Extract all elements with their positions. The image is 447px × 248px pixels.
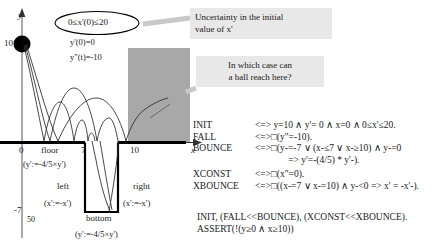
spec-name-bounce-cont [193,155,255,167]
spec-body-fall: <=>□(y"=-10). [255,132,312,144]
region-label-left: left [57,182,69,191]
callout-reach-line1: In which case can [201,59,319,71]
region-equation-bottom: (y':=-4/5×y') [75,230,118,239]
spec-name-fall: FALL [193,132,255,144]
spec-footer-line2: ASSERT(!(y≥0 ∧ x≥10)) [197,224,294,236]
figure-root: y x 10 0 7 10 -7 50 0≤x'(0)≤20 y'(0)=0 y… [0,0,447,248]
y-tick-10: 10 [4,39,13,48]
x-tick-7: 7 [81,146,86,155]
callout-uncertainty-line2: value of x' [195,23,327,35]
spec-line: FALL <=>□(y"=-10). [193,132,419,144]
spec-name-xbounce: XBOUNCE [193,181,255,193]
spec-body-init: <=> y=10 ∧ y'= 0 ∧ x=0 ∧ 0≤x'≤20. [255,120,396,132]
region-label-floor: floor [41,146,59,155]
spec-body-xbounce: <=>□((x-=7 ∨ x-=10) ∧ y-<0 => x' = -x'-)… [255,181,419,193]
region-label-bottom: bottom [86,214,112,223]
y-axis-label: y [18,11,22,20]
goal-region-rect [128,48,190,143]
x-tick-10: 10 [130,146,139,155]
y-tick-neg7: -7 [14,206,22,215]
region-equation-left: (x':=-x') [44,199,71,208]
spec-line: XCONST <=>□(x"=0). [193,169,419,181]
region-equation-right: (x':=-x') [123,199,150,208]
initial-condition-yprime: y'(0)=0 [70,38,95,47]
x-tick-0: 0 [19,146,24,155]
spec-footer-line1: INIT, (FALL<<BOUNCE), (XCONST<<XBOUNCE). [197,212,407,224]
spec-line: => y'=-(4/5) * y'-). [193,155,419,167]
spec-name-xconst: XCONST [193,169,255,181]
y-tick-50: 50 [27,216,35,224]
callout-uncertainty: Uncertainty in the initial value of x' [190,8,332,39]
spec-name-init: INIT [193,120,255,132]
spec-body-bounce-cont: => y'=-(4/5) * y'-). [255,155,359,167]
initial-condition-ydoubleprime: y"(t)=-10 [70,53,102,62]
spec-name-bounce: BOUNCE [193,143,255,155]
pit-outline [85,143,118,213]
spec-body-bounce: <=>□(y-=-7 ∨ (x-≤7 ∨ x-≥10) ∧ y-=0 [255,143,401,155]
region-label-right: right [133,182,150,191]
callout-reach: In which case can a ball reach here? [196,56,324,87]
spec-block: INIT <=> y=10 ∧ y'= 0 ∧ x=0 ∧ 0≤x'≤20. F… [193,120,419,192]
callout-uncertainty-line1: Uncertainty in the initial [195,11,327,23]
ellipse-callout-connector [143,18,190,24]
spec-line: XBOUNCE <=>□((x-=7 ∨ x-=10) ∧ y-<0 => x'… [193,181,419,193]
uncertainty-interval-text: 0≤x'(0)≤20 [68,18,108,27]
spec-line: INIT <=> y=10 ∧ y'= 0 ∧ x=0 ∧ 0≤x'≤20. [193,120,419,132]
callout-reach-line2: a ball reach here? [201,71,319,83]
spec-body-xconst: <=>□(x"=0). [255,169,304,181]
spec-line: BOUNCE <=>□(y-=-7 ∨ (x-≤7 ∨ x-≥10) ∧ y-=… [193,143,419,155]
region-equation-floor: (y':=-4/5×y') [23,160,66,169]
